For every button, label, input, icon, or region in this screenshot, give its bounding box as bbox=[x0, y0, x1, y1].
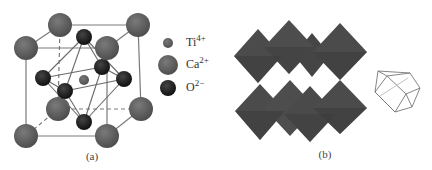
ca-atom bbox=[14, 124, 38, 148]
octahedron-shade bbox=[234, 56, 282, 83]
o-atom bbox=[76, 29, 92, 45]
ti-atom bbox=[79, 75, 89, 85]
cuboctahedron-wireframe bbox=[375, 71, 420, 112]
unit-cell-diagram bbox=[14, 13, 153, 148]
legend-o-icon bbox=[160, 80, 176, 96]
caption-b: (b) bbox=[319, 148, 332, 160]
perovskite-figure bbox=[0, 0, 432, 170]
octahedron-shade bbox=[313, 52, 367, 80]
ca-atom bbox=[95, 36, 119, 60]
ca-atom bbox=[14, 36, 38, 60]
ca-atom bbox=[129, 97, 153, 121]
octahedron-shade bbox=[235, 111, 285, 140]
o-atom bbox=[35, 70, 51, 86]
o-atom bbox=[94, 59, 110, 75]
o-atom bbox=[57, 83, 73, 99]
legend-o-label: O2− bbox=[186, 80, 204, 95]
legend-ti-icon bbox=[163, 38, 173, 48]
legend-ti-label: Ti4+ bbox=[186, 35, 206, 50]
legend-ca-label: Ca2+ bbox=[186, 57, 209, 72]
legend-ca-icon bbox=[158, 55, 178, 75]
ca-atom bbox=[48, 13, 72, 37]
o-atom bbox=[76, 114, 92, 130]
ca-atom bbox=[95, 124, 119, 148]
ca-atom bbox=[126, 13, 150, 37]
octahedra-network bbox=[234, 20, 367, 142]
ca-atom bbox=[46, 97, 70, 121]
o-atom bbox=[116, 71, 132, 87]
legend-symbols bbox=[158, 38, 178, 96]
caption-a: (a) bbox=[86, 150, 98, 162]
